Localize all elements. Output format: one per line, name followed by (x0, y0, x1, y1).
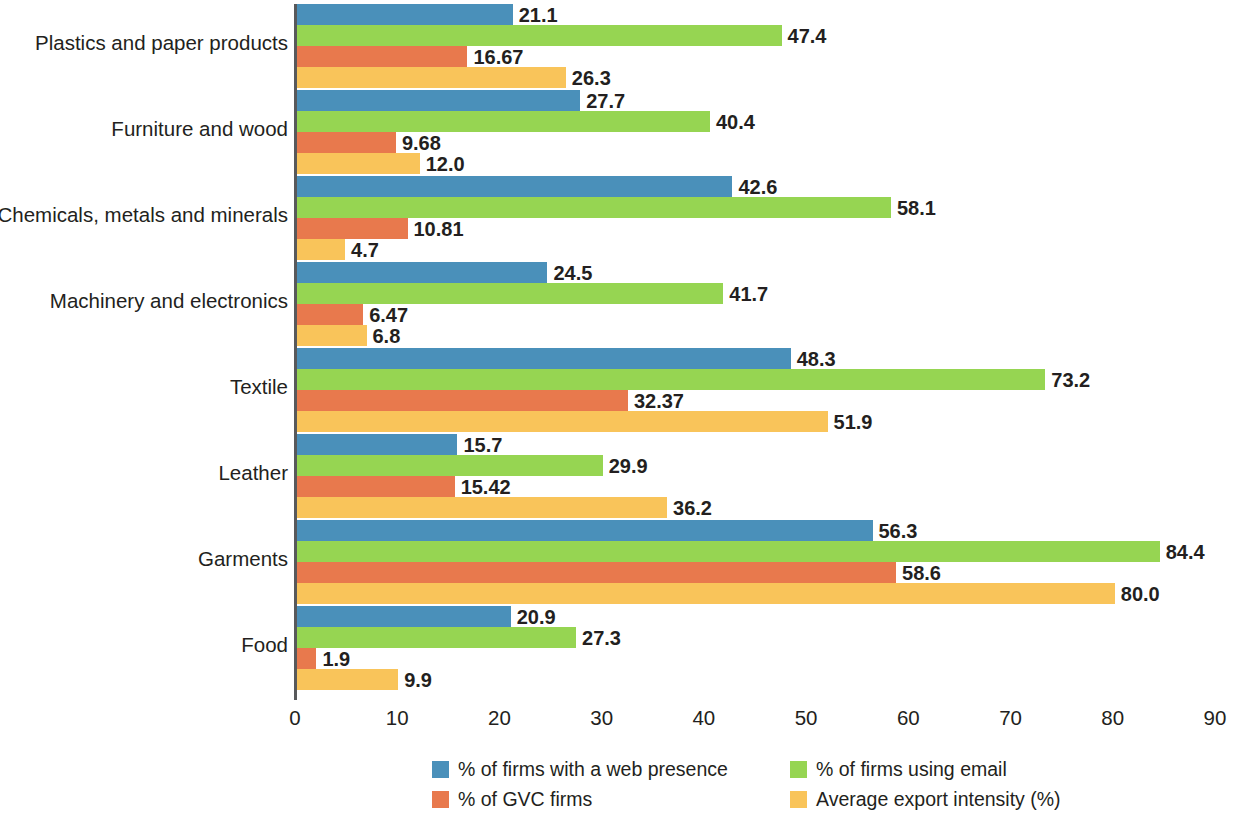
bar (297, 46, 467, 67)
bar-value-label: 40.4 (710, 110, 755, 133)
bar-row: 1.9 (297, 648, 1246, 669)
bar-value-label: 73.2 (1045, 368, 1090, 391)
bar-value-label: 32.37 (628, 389, 684, 412)
bar-value-label: 27.3 (576, 626, 621, 649)
bar-row: 24.5 (297, 262, 1246, 283)
plot-area: Plastics and paper products21.147.416.67… (0, 0, 1246, 700)
category-label: Plastics and paper products (0, 32, 288, 55)
x-axis-tick-label: 0 (289, 706, 300, 730)
bar-value-label: 15.42 (455, 475, 511, 498)
bar-row: 12.0 (297, 153, 1246, 174)
bar-value-label: 1.9 (316, 647, 350, 670)
bar (297, 4, 513, 25)
bar-row: 9.9 (297, 669, 1246, 690)
bar-row: 56.3 (297, 520, 1246, 541)
bar (297, 520, 873, 541)
bar (297, 434, 457, 455)
bar (297, 606, 511, 627)
bar (297, 239, 345, 260)
bar (297, 176, 732, 197)
bar-value-label: 15.7 (457, 433, 502, 456)
bar (297, 562, 896, 583)
bar (297, 304, 363, 325)
bar-value-label: 80.0 (1115, 582, 1160, 605)
bar (297, 541, 1160, 562)
legend-item[interactable]: % of firms with a web presence (432, 758, 790, 781)
legend-label: % of firms using email (816, 758, 1007, 781)
bar-row: 42.6 (297, 176, 1246, 197)
bar-row: 73.2 (297, 369, 1246, 390)
chart-legend: % of firms with a web presence% of firms… (432, 754, 1222, 813)
bar-value-label: 6.47 (363, 303, 408, 326)
bar-row: 26.3 (297, 67, 1246, 88)
bar-value-label: 56.3 (873, 519, 918, 542)
bar-row: 84.4 (297, 541, 1246, 562)
bar (297, 648, 316, 669)
bar (297, 369, 1045, 390)
bar-row: 6.8 (297, 325, 1246, 346)
bar (297, 455, 603, 476)
category-label: Chemicals, metals and minerals (0, 204, 288, 227)
category-label: Garments (0, 548, 288, 571)
bar-row: 27.3 (297, 627, 1246, 648)
bar-value-label: 16.67 (467, 45, 523, 68)
bar-value-label: 41.7 (723, 282, 768, 305)
bar-row: 21.1 (297, 4, 1246, 25)
bar (297, 476, 455, 497)
bar-value-label: 21.1 (513, 3, 558, 26)
x-axis-tick-label: 10 (386, 706, 409, 730)
bar-row: 27.7 (297, 90, 1246, 111)
x-axis-tick-label: 90 (1204, 706, 1227, 730)
legend-item[interactable]: % of GVC firms (432, 788, 790, 811)
bar (297, 111, 710, 132)
category-label: Furniture and wood (0, 118, 288, 141)
bar (297, 325, 367, 346)
bar-row: 15.7 (297, 434, 1246, 455)
bar-group: Machinery and electronics24.541.76.476.8 (0, 262, 1246, 346)
legend-swatch-icon (790, 791, 807, 808)
legend-label: Average export intensity (%) (816, 788, 1061, 811)
bar-group: Plastics and paper products21.147.416.67… (0, 4, 1246, 88)
bar-row: 40.4 (297, 111, 1246, 132)
bar-group: Chemicals, metals and minerals42.658.110… (0, 176, 1246, 260)
x-axis-tick-label: 20 (488, 706, 511, 730)
bar-row: 48.3 (297, 348, 1246, 369)
bar-value-label: 20.9 (511, 605, 556, 628)
bar-value-label: 84.4 (1160, 540, 1205, 563)
bar-row: 36.2 (297, 497, 1246, 518)
bar-value-label: 10.81 (408, 217, 464, 240)
legend-item[interactable]: Average export intensity (%) (790, 788, 1180, 811)
bar-row: 58.1 (297, 197, 1246, 218)
bar (297, 669, 398, 690)
x-axis-tick-label: 80 (1101, 706, 1124, 730)
bar (297, 197, 891, 218)
bar-value-label: 47.4 (782, 24, 827, 47)
category-label: Textile (0, 376, 288, 399)
bar-chart: Plastics and paper products21.147.416.67… (0, 0, 1246, 813)
bar-value-label: 58.1 (891, 196, 936, 219)
category-label: Machinery and electronics (0, 290, 288, 313)
bar-row: 10.81 (297, 218, 1246, 239)
bar (297, 497, 667, 518)
bar-value-label: 9.9 (398, 668, 432, 691)
bar (297, 218, 408, 239)
bar-row: 4.7 (297, 239, 1246, 260)
category-label: Food (0, 634, 288, 657)
bar-value-label: 51.9 (828, 410, 873, 433)
bar-value-label: 29.9 (603, 454, 648, 477)
bar-row: 15.42 (297, 476, 1246, 497)
bar (297, 25, 782, 46)
bar-row: 6.47 (297, 304, 1246, 325)
bar-value-label: 4.7 (345, 238, 379, 261)
bar (297, 390, 628, 411)
bar-value-label: 26.3 (566, 66, 611, 89)
legend-swatch-icon (790, 761, 807, 778)
bar (297, 90, 580, 111)
category-label: Leather (0, 462, 288, 485)
legend-swatch-icon (432, 761, 449, 778)
x-axis: 0102030405060708090 (0, 700, 1246, 740)
legend-item[interactable]: % of firms using email (790, 758, 1180, 781)
x-axis-tick-label: 60 (897, 706, 920, 730)
bar-value-label: 27.7 (580, 89, 625, 112)
bar-value-label: 42.6 (732, 175, 777, 198)
